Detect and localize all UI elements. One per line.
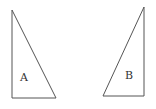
triangle-b (103, 7, 144, 96)
triangle-a (12, 10, 56, 98)
triangle-b-label: B (125, 69, 133, 82)
diagram-canvas: A B (0, 0, 156, 109)
triangle-a-label: A (19, 71, 29, 84)
